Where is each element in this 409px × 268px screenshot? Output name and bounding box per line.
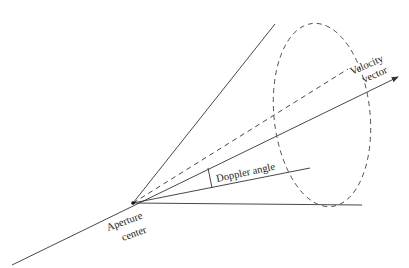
doppler-angle-arc	[208, 168, 212, 188]
doppler-cone-diagram: Velocity vector Doppler angle Aperture c…	[0, 0, 409, 268]
cone-hidden-edge	[133, 69, 348, 203]
aperture-center-dot	[131, 201, 135, 205]
cone-lower-edge	[133, 203, 362, 205]
cone-base-ellipse	[265, 18, 380, 211]
velocity-vector-axis	[12, 77, 398, 265]
